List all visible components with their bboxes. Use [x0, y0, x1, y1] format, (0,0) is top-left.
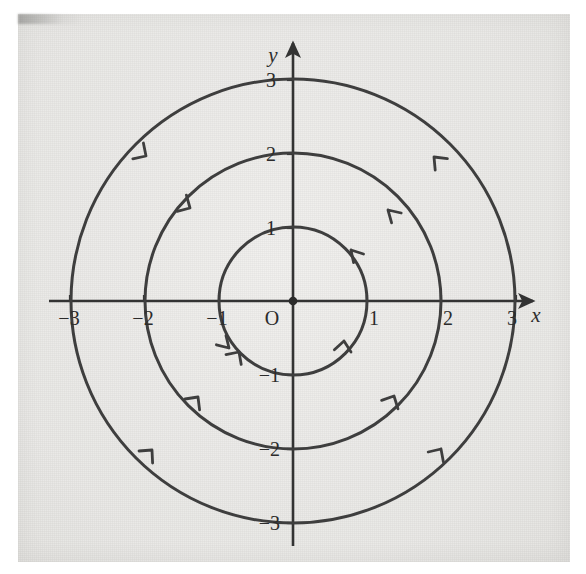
y-tick-label--2: −2	[259, 438, 280, 460]
flow-arrow-r1-q3	[226, 352, 241, 364]
x-tick-label-1: 1	[369, 307, 379, 329]
flow-arrow-r3-q1	[434, 157, 447, 170]
phase-portrait-plot: x y O −3 −2 −1 1 2 3 3 2 1 −1 −2 −3	[0, 0, 586, 574]
flow-arrow-r1-q4	[334, 341, 351, 352]
y-axis-label: y	[266, 43, 278, 67]
x-tick-label-3: 3	[507, 307, 517, 329]
origin-equilibrium-point	[289, 297, 298, 306]
flow-arrow-r1-q1	[351, 250, 364, 263]
x-axis-label: x	[530, 303, 541, 327]
y-tick-label--3: −3	[259, 512, 280, 534]
x-tick-label--2: −2	[132, 307, 153, 329]
flow-arrow-r3-q4	[428, 449, 443, 462]
x-tick-label-2: 2	[443, 307, 453, 329]
y-tick-label--1: −1	[259, 364, 280, 386]
phase-portrait-svg: x y O −3 −2 −1 1 2 3 3 2 1 −1 −2 −3	[0, 0, 586, 574]
origin-label: O	[265, 307, 279, 329]
y-tick-label-3: 3	[266, 69, 276, 91]
figure-canvas: x y O −3 −2 −1 1 2 3 3 2 1 −1 −2 −3	[0, 0, 586, 574]
axis-lines	[49, 43, 533, 546]
flow-arrow-r2-q1	[388, 210, 401, 223]
x-tick-label--1: −1	[206, 307, 227, 329]
flow-arrow-r1-q2	[216, 336, 229, 348]
y-tick-label-2: 2	[266, 143, 276, 165]
x-tick-label--3: −3	[58, 307, 79, 329]
y-tick-label-1: 1	[266, 217, 276, 239]
